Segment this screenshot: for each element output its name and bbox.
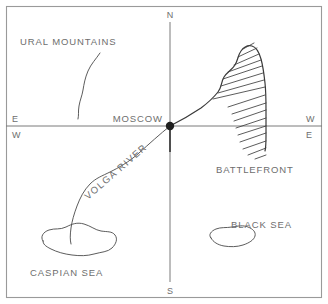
battlefront-hatching bbox=[213, 43, 266, 159]
compass-label-right-upper: W bbox=[306, 114, 315, 124]
caspian-sea-label: CASPIAN SEA bbox=[30, 267, 103, 278]
moscow-marker bbox=[166, 122, 174, 130]
battlefront-label: BATTLEFRONT bbox=[216, 164, 294, 175]
volga-river-line bbox=[70, 126, 170, 244]
map-border bbox=[7, 7, 322, 298]
compass-label-left-upper: E bbox=[12, 114, 18, 124]
caspian-sea-outline bbox=[42, 223, 117, 255]
compass-label-right-lower: E bbox=[306, 130, 312, 140]
ural-mountains-label: URAL MOUNTAINS bbox=[20, 36, 117, 47]
compass-label-left-lower: W bbox=[12, 130, 21, 140]
map-canvas: N S E W W E MOSCOW URAL MOUNTAINS VOLGA … bbox=[0, 0, 328, 304]
ural-mountains-line bbox=[78, 53, 100, 119]
black-sea-label: BLACK SEA bbox=[231, 219, 292, 230]
battlefront-line bbox=[170, 46, 266, 151]
volga-river-label: VOLGA RIVER bbox=[82, 141, 149, 201]
sketch-map: N S E W W E MOSCOW URAL MOUNTAINS VOLGA … bbox=[0, 0, 328, 304]
compass-label-north: N bbox=[167, 10, 174, 20]
moscow-label: MOSCOW bbox=[113, 113, 163, 124]
compass-label-south: S bbox=[167, 286, 173, 296]
